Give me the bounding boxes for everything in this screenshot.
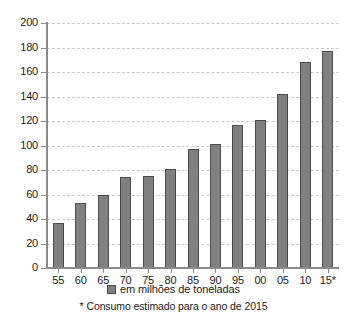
gridline-200 xyxy=(47,23,339,24)
y-tick-label-80: 80 xyxy=(4,164,38,175)
x-tick-05 xyxy=(283,268,284,273)
bar-65 xyxy=(98,195,109,269)
y-tick-label-160: 160 xyxy=(4,66,38,77)
legend-label: em milhões de toneladas xyxy=(120,283,240,295)
y-tick-140 xyxy=(41,97,47,98)
gridline-100 xyxy=(47,146,339,147)
y-tick-label-200: 200 xyxy=(4,17,38,28)
chart-legend: em milhões de toneladas xyxy=(0,283,347,295)
y-tick-label-180: 180 xyxy=(4,42,38,53)
bar-chart: 020406080100120140160180200 556065707580… xyxy=(0,0,347,316)
gridline-180 xyxy=(47,48,339,49)
x-tick-60 xyxy=(81,268,82,273)
bar-70 xyxy=(120,177,131,268)
bar-00 xyxy=(255,120,266,268)
bar-55 xyxy=(53,223,64,268)
y-tick-100 xyxy=(41,146,47,147)
y-tick-20 xyxy=(41,244,47,245)
plot-area xyxy=(47,23,339,268)
x-tick-00 xyxy=(260,268,261,273)
y-tick-label-100: 100 xyxy=(4,140,38,151)
bar-80 xyxy=(165,169,176,268)
bar-15* xyxy=(322,51,333,268)
gridline-160 xyxy=(47,72,339,73)
bar-05 xyxy=(277,94,288,268)
y-tick-label-20: 20 xyxy=(4,238,38,249)
y-tick-60 xyxy=(41,195,47,196)
x-tick-70 xyxy=(126,268,127,273)
bar-10 xyxy=(300,62,311,268)
x-tick-75 xyxy=(148,268,149,273)
x-tick-95 xyxy=(238,268,239,273)
y-tick-200 xyxy=(41,23,47,24)
x-tick-85 xyxy=(193,268,194,273)
y-tick-label-140: 140 xyxy=(4,91,38,102)
y-tick-label-0: 0 xyxy=(4,262,38,273)
chart-footnote: * Consumo estimado para o ano de 2015 xyxy=(0,300,347,312)
y-tick-label-60: 60 xyxy=(4,189,38,200)
x-tick-55 xyxy=(58,268,59,273)
y-tick-label-120: 120 xyxy=(4,115,38,126)
bar-85 xyxy=(188,149,199,268)
x-tick-65 xyxy=(103,268,104,273)
bar-95 xyxy=(232,125,243,268)
bar-75 xyxy=(143,176,154,268)
y-tick-120 xyxy=(41,121,47,122)
y-tick-0 xyxy=(41,268,47,269)
bar-90 xyxy=(210,144,221,268)
legend-swatch-icon xyxy=(107,285,116,294)
x-tick-15* xyxy=(328,268,329,273)
y-tick-40 xyxy=(41,219,47,220)
x-tick-90 xyxy=(215,268,216,273)
y-tick-160 xyxy=(41,72,47,73)
x-tick-10 xyxy=(305,268,306,273)
y-tick-80 xyxy=(41,170,47,171)
y-tick-label-40: 40 xyxy=(4,213,38,224)
gridline-120 xyxy=(47,121,339,122)
bar-60 xyxy=(75,203,86,268)
gridline-140 xyxy=(47,97,339,98)
y-tick-180 xyxy=(41,48,47,49)
x-tick-80 xyxy=(171,268,172,273)
